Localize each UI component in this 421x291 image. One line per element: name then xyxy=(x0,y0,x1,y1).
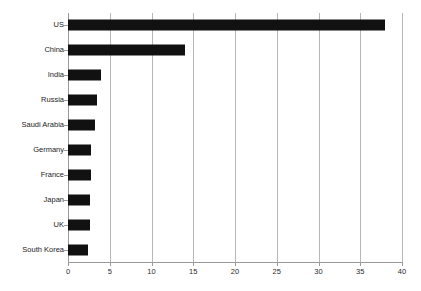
x-axis-tick-label: 35 xyxy=(356,267,364,277)
y-axis-tick xyxy=(64,200,68,201)
y-axis-tick xyxy=(64,175,68,176)
category-label: Germany xyxy=(0,145,64,155)
bar xyxy=(68,45,185,56)
y-axis-tick xyxy=(64,225,68,226)
x-axis-tick xyxy=(68,262,69,266)
gridline xyxy=(277,13,278,262)
gridline xyxy=(360,13,361,262)
bar xyxy=(68,219,90,230)
bar-chart: USChinaIndiaRussiaSaudi ArabiaGermanyFra… xyxy=(0,0,421,291)
bar xyxy=(68,194,90,205)
y-axis-tick xyxy=(64,250,68,251)
bar xyxy=(68,95,97,106)
x-axis-tick-label: 5 xyxy=(108,267,112,277)
y-axis-tick xyxy=(64,50,68,51)
category-label: US xyxy=(0,20,64,30)
gridline xyxy=(402,13,403,262)
x-axis-tick xyxy=(277,262,278,266)
category-label: China xyxy=(0,45,64,55)
category-axis-labels: USChinaIndiaRussiaSaudi ArabiaGermanyFra… xyxy=(0,0,64,291)
y-axis-tick xyxy=(64,125,68,126)
category-label: Saudi Arabia xyxy=(0,120,64,130)
plot-area xyxy=(68,13,402,262)
x-axis-tick-label: 30 xyxy=(314,267,322,277)
x-axis-tick xyxy=(110,262,111,266)
category-label: India xyxy=(0,70,64,80)
x-axis-tick-label: 15 xyxy=(189,267,197,277)
x-axis-tick xyxy=(193,262,194,266)
y-axis-tick xyxy=(64,150,68,151)
gridline xyxy=(235,13,236,262)
category-label: France xyxy=(0,170,64,180)
category-label: Japan xyxy=(0,195,64,205)
bar xyxy=(68,169,91,180)
x-axis-tick xyxy=(152,262,153,266)
bar xyxy=(68,70,101,81)
bar xyxy=(68,244,88,255)
bar xyxy=(68,20,385,31)
bar xyxy=(68,144,91,155)
x-axis-tick xyxy=(360,262,361,266)
x-axis-tick-label: 10 xyxy=(147,267,155,277)
x-axis-tick-label: 0 xyxy=(66,267,70,277)
x-axis-tick xyxy=(319,262,320,266)
gridline xyxy=(319,13,320,262)
x-axis-tick-label: 40 xyxy=(398,267,406,277)
category-label: South Korea xyxy=(0,245,64,255)
category-label: Russia xyxy=(0,95,64,105)
y-axis-tick xyxy=(64,25,68,26)
category-label: UK xyxy=(0,220,64,230)
x-axis-tick xyxy=(402,262,403,266)
x-axis-tick xyxy=(235,262,236,266)
x-axis-tick-label: 25 xyxy=(273,267,281,277)
gridline xyxy=(193,13,194,262)
y-axis-tick xyxy=(64,75,68,76)
bar xyxy=(68,120,95,131)
y-axis-tick xyxy=(64,100,68,101)
x-axis-tick-label: 20 xyxy=(231,267,239,277)
